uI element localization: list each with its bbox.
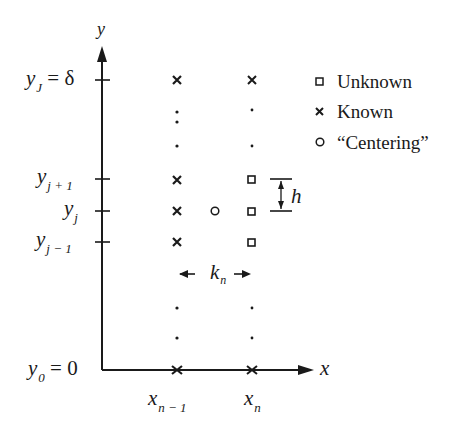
x-tick-label-xn-minus-1: xn − 1 bbox=[148, 388, 187, 409]
centering-marker bbox=[211, 207, 219, 215]
legend-known-icon bbox=[316, 108, 323, 115]
x-axis-label: x bbox=[320, 358, 329, 379]
y-axis bbox=[95, 46, 110, 370]
legend-unknown-label: Unknown bbox=[337, 72, 412, 91]
ellipsis-dots-column-n bbox=[251, 109, 254, 340]
y-tick-label-y0: y0 = 0 bbox=[28, 358, 78, 379]
y-axis-label: y bbox=[97, 20, 105, 38]
y-tick-label-yj-plus-1: yj + 1 bbox=[37, 166, 73, 187]
y-tick-label-yJ: yJ = δ bbox=[26, 68, 74, 89]
y-tick-label-yj: yj bbox=[64, 198, 78, 219]
known-markers-column-n bbox=[247, 76, 257, 374]
legend-unknown-icon bbox=[316, 78, 323, 85]
legend-centering-icon bbox=[316, 138, 324, 146]
ellipsis-dots-column-n-minus-1 bbox=[175, 110, 178, 339]
y-tick-label-yj-minus-1: yj − 1 bbox=[36, 229, 72, 250]
h-spacing-bracket bbox=[270, 179, 292, 211]
h-label: h bbox=[291, 186, 302, 207]
unknown-markers-column-n bbox=[248, 176, 255, 246]
legend-symbols bbox=[316, 78, 324, 146]
x-tick-label-xn: xn bbox=[244, 388, 261, 409]
legend-centering-label: “Centering” bbox=[337, 133, 429, 152]
k-label: kn bbox=[210, 262, 226, 283]
x-axis bbox=[102, 365, 314, 375]
legend-known-label: Known bbox=[337, 102, 393, 121]
